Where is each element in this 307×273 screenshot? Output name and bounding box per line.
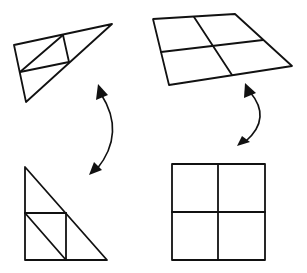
- canonical-grid: [172, 164, 265, 260]
- right-double-arrow: [237, 83, 260, 146]
- distorted-triangle-inner-line: [63, 35, 69, 62]
- right-arrow-curve: [246, 92, 260, 141]
- arrow-head-icon: [237, 136, 250, 146]
- diagram-svg: [0, 0, 307, 273]
- distorted-grid: [153, 14, 292, 85]
- canonical-triangle-diagonal: [25, 213, 66, 260]
- distorted-grid-horizontal-divider: [161, 40, 263, 52]
- left-double-arrow: [89, 84, 113, 175]
- arrow-head-icon: [244, 83, 256, 98]
- distorted-triangle-diagonal: [20, 35, 63, 72]
- diagram-canvas: Transformation diagram showing distorted…: [0, 0, 307, 273]
- arrow-head-icon: [96, 84, 108, 100]
- left-arrow-curve: [97, 94, 113, 169]
- canonical-triangle: [25, 167, 107, 260]
- distorted-grid-outline: [153, 14, 292, 85]
